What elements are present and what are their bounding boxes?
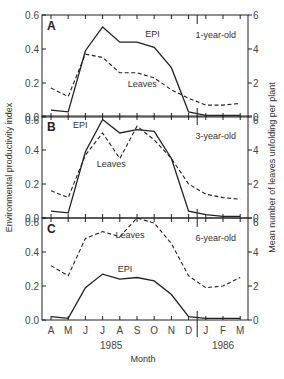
panel-letter: C: [47, 222, 56, 236]
series-label: Leaves: [97, 159, 127, 169]
epi-line-a: [51, 27, 240, 115]
year-label: 1985: [100, 340, 123, 351]
leaves-line-c: [51, 218, 240, 288]
x-tick-label: O: [150, 325, 158, 336]
panel-letter: B: [47, 120, 56, 134]
y-left-tick-label: 0.2: [25, 179, 39, 190]
x-tick-label: J: [83, 325, 88, 336]
y-left-tick-label: 0.2: [25, 78, 39, 89]
y-right-tick-label: 4: [253, 247, 259, 258]
x-tick-label: A: [116, 325, 123, 336]
panel-annotation: 1-year-old: [195, 30, 236, 40]
y-right-tick-label: 6: [253, 10, 259, 21]
panel-annotation: 3-year-old: [195, 131, 236, 141]
x-tick-label: M: [64, 325, 72, 336]
panel-annotation: 6-year-old: [195, 233, 236, 243]
y-left-tick-label: 0.2: [25, 281, 39, 292]
y-left-tick-label: 0.4: [25, 44, 39, 55]
year-label: 1986: [212, 340, 235, 351]
x-tick-label: D: [185, 325, 192, 336]
series-label: Leaves: [128, 79, 158, 89]
y-right-tick-label: 2: [253, 281, 259, 292]
series-label: EPI: [73, 120, 88, 130]
series-label: EPI: [145, 29, 160, 39]
y-right-tick-label: 2: [253, 179, 259, 190]
y-left-tick-label: 0.6: [25, 217, 39, 228]
epi-line-c: [51, 274, 240, 318]
y-right-tick-label: 0: [253, 315, 259, 326]
y-left-tick-label: 0.6: [25, 10, 39, 21]
x-tick-label: S: [134, 325, 141, 336]
x-tick-label: J: [100, 325, 105, 336]
y-left-tick-label: 0.6: [25, 115, 39, 126]
epi-leaves-chart: 0.00.20.40.60246EPILeavesA1-year-old0.00…: [0, 0, 284, 379]
series-label: EPI: [118, 264, 133, 274]
y-right-tick-label: 4: [253, 145, 259, 156]
panel-letter: A: [47, 19, 56, 33]
series-label: Leaves: [116, 230, 146, 240]
y-left-tick-label: 0.0: [25, 315, 39, 326]
x-axis-title: Month: [130, 354, 155, 364]
x-tick-label: M: [236, 325, 244, 336]
x-tick-label: N: [168, 325, 175, 336]
x-tick-label: A: [48, 325, 55, 336]
y-left-tick-label: 0.4: [25, 145, 39, 156]
y-right-tick-label: 6: [253, 217, 259, 228]
y-left-tick-label: 0.4: [25, 247, 39, 258]
y-left-axis-title: Environmental productivity index: [4, 102, 14, 232]
y-right-tick-label: 4: [253, 44, 259, 55]
y-right-tick-label: 6: [253, 115, 259, 126]
y-right-tick-label: 2: [253, 78, 259, 89]
y-right-axis-title: Mean number of leaves unfolding per plan…: [267, 82, 277, 253]
x-tick-label: J: [203, 325, 208, 336]
x-tick-label: F: [220, 325, 226, 336]
